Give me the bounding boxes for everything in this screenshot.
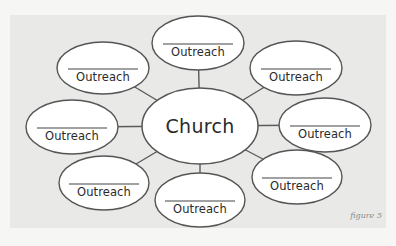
outreach-node-label: Outreach bbox=[45, 129, 99, 143]
outreach-node-left bbox=[26, 100, 118, 154]
outreach-node-bottom-left bbox=[59, 156, 149, 210]
outreach-node-top bbox=[152, 16, 244, 70]
figure-caption: figure 5 bbox=[350, 211, 382, 220]
outreach-node-label: Outreach bbox=[173, 202, 227, 216]
outreach-node-right bbox=[279, 98, 371, 152]
outreach-node-label: Outreach bbox=[269, 70, 323, 84]
outreach-node-label: Outreach bbox=[77, 185, 131, 199]
outreach-node-label: Outreach bbox=[298, 127, 352, 141]
center-node-label: Church bbox=[165, 115, 234, 137]
outreach-node-top-left bbox=[57, 42, 149, 94]
outreach-node-label: Outreach bbox=[171, 45, 225, 59]
outreach-node-label: Outreach bbox=[76, 70, 130, 84]
outreach-node-bottom-right bbox=[252, 150, 342, 204]
outreach-node-bottom-center bbox=[155, 173, 245, 227]
outreach-node-label: Outreach bbox=[270, 179, 324, 193]
outreach-node-top-right bbox=[250, 41, 342, 95]
